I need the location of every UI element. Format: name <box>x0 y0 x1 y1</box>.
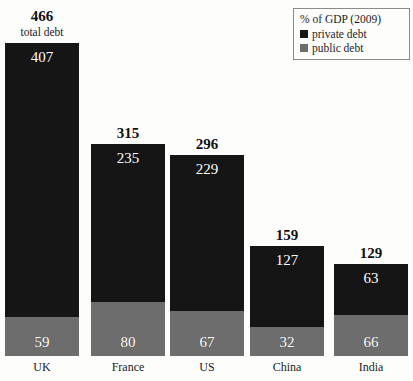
bar-value-public-india: 66 <box>334 334 408 350</box>
bar-group-france: 315 235 80 France <box>91 0 165 381</box>
bar-value-private-china: 127 <box>250 252 324 268</box>
bar-group-india: 129 63 66 India <box>334 0 408 381</box>
bar-segment-private-uk: 407 <box>5 43 79 317</box>
bar-value-private-india: 63 <box>334 270 408 286</box>
bar-value-private-france: 235 <box>91 150 165 166</box>
bar-segment-public-india: 66 <box>334 315 408 356</box>
bar-segment-private-us: 229 <box>170 155 244 311</box>
bar-segment-public-china: 32 <box>250 327 324 356</box>
bar-total-us: 296 <box>170 136 244 152</box>
bar-total-france: 315 <box>91 125 165 141</box>
bar-segment-public-france: 80 <box>91 302 165 356</box>
bar-total-china: 159 <box>250 227 324 243</box>
bar-segment-private-india: 63 <box>334 264 408 315</box>
bar-stack-india: 63 66 <box>334 264 408 356</box>
bar-value-public-china: 32 <box>250 334 324 350</box>
bar-segment-private-china: 127 <box>250 246 324 327</box>
bar-total-india: 129 <box>334 245 408 261</box>
bar-stack-china: 127 32 <box>250 246 324 356</box>
bar-category-uk: UK <box>5 360 79 374</box>
bar-value-public-uk: 59 <box>5 334 79 350</box>
bar-category-france: France <box>91 360 165 374</box>
bar-category-china: China <box>250 360 324 374</box>
bar-value-private-uk: 407 <box>5 49 79 65</box>
bar-group-uk: 466 total debt 407 59 UK <box>5 0 79 381</box>
bar-category-india: India <box>334 360 408 374</box>
bar-value-public-us: 67 <box>170 334 244 350</box>
bar-subtitle-uk: total debt <box>5 26 79 39</box>
stacked-bar-chart: % of GDP (2009) private debt public debt… <box>0 0 413 381</box>
bar-stack-france: 235 80 <box>91 144 165 356</box>
bar-stack-us: 229 67 <box>170 155 244 356</box>
bar-group-us: 296 229 67 US <box>170 0 244 381</box>
bar-group-china: 159 127 32 China <box>250 0 324 381</box>
bar-value-public-france: 80 <box>91 334 165 350</box>
bar-total-uk: 466 <box>5 8 79 24</box>
bar-segment-public-uk: 59 <box>5 317 79 356</box>
bar-stack-uk: 407 59 <box>5 43 79 356</box>
bar-segment-public-us: 67 <box>170 311 244 356</box>
bar-value-private-us: 229 <box>170 161 244 177</box>
bar-category-us: US <box>170 360 244 374</box>
bar-segment-private-france: 235 <box>91 144 165 302</box>
